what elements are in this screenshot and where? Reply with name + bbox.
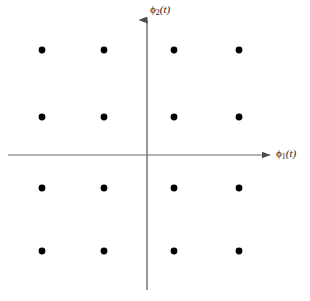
constellation-point	[39, 47, 46, 54]
constellation-point	[101, 185, 108, 192]
constellation-point	[171, 47, 178, 54]
constellation-diagram-figure: ϕ2(t) ϕ1(t)	[0, 0, 310, 301]
y-axis-label: ϕ2(t)	[150, 4, 170, 17]
constellation-point	[236, 248, 243, 255]
constellation-point-group	[39, 47, 243, 255]
constellation-point	[101, 47, 108, 54]
x-axis-label-argument: (t)	[286, 147, 296, 159]
constellation-point	[171, 114, 178, 121]
constellation-point	[101, 248, 108, 255]
constellation-point	[39, 248, 46, 255]
constellation-point	[39, 185, 46, 192]
constellation-point	[236, 47, 243, 54]
y-axis-label-argument: (t)	[160, 3, 170, 15]
constellation-point	[171, 248, 178, 255]
constellation-point	[39, 114, 46, 121]
plot-canvas	[0, 0, 310, 301]
constellation-point	[236, 114, 243, 121]
constellation-point	[171, 185, 178, 192]
constellation-point	[236, 185, 243, 192]
x-axis-label: ϕ1(t)	[276, 148, 296, 161]
constellation-point	[101, 114, 108, 121]
